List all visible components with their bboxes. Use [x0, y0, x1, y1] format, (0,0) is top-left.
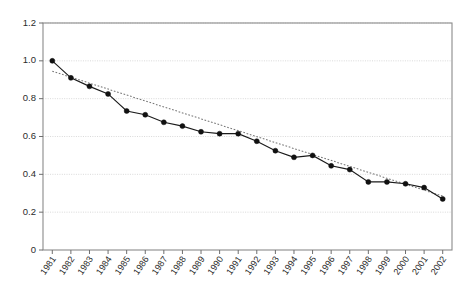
x-tick-label: 1990: [206, 254, 226, 276]
data-point-marker: [366, 179, 371, 184]
x-tick-label: 1995: [299, 254, 319, 276]
data-point-marker: [217, 131, 222, 136]
x-tick-label: 1988: [168, 254, 188, 276]
data-point-marker: [310, 153, 315, 158]
x-tick-label: 1987: [150, 254, 170, 276]
x-tick-label: 1998: [354, 254, 374, 276]
x-tick-label: 1983: [75, 254, 95, 276]
y-tick-label: 0.6: [23, 130, 36, 141]
x-tick-label: 2002: [429, 254, 449, 276]
data-point-marker: [422, 185, 427, 190]
y-tick-label: 0: [31, 244, 36, 255]
x-axis-ticks: [52, 250, 442, 254]
x-tick-label: 1994: [280, 254, 300, 276]
line-chart: 1.21.00.80.60.40.20 19811982198319841985…: [0, 0, 467, 300]
x-tick-label: 1991: [224, 254, 244, 276]
gridlines: [43, 23, 452, 212]
chart-container: 1.21.00.80.60.40.20 19811982198319841985…: [0, 0, 467, 300]
x-axis-labels: 1981198219831984198519861987198819891990…: [38, 254, 448, 276]
data-point-markers: [50, 58, 445, 201]
x-tick-label: 1997: [336, 254, 356, 276]
observed-line-series: [52, 61, 442, 199]
x-tick-label: 1999: [373, 254, 393, 276]
x-tick-label: 1981: [38, 254, 58, 276]
data-point-marker: [161, 120, 166, 125]
x-tick-label: 1993: [261, 254, 281, 276]
trend-line-series: [52, 71, 442, 196]
x-tick-label: 2000: [391, 254, 411, 276]
y-tick-label: 1.0: [23, 54, 36, 65]
data-point-marker: [440, 196, 445, 201]
x-tick-label: 1985: [113, 254, 133, 276]
y-tick-label: 0.2: [23, 206, 36, 217]
data-point-marker: [143, 112, 148, 117]
x-tick-label: 1992: [243, 254, 263, 276]
x-tick-label: 1989: [187, 254, 207, 276]
data-point-marker: [199, 129, 204, 134]
y-tick-label: 1.2: [23, 17, 36, 28]
x-tick-label: 1982: [57, 254, 77, 276]
data-point-marker: [291, 155, 296, 160]
data-point-marker: [236, 131, 241, 136]
data-point-marker: [106, 91, 111, 96]
y-tick-label: 0.8: [23, 92, 36, 103]
data-point-marker: [329, 163, 334, 168]
x-tick-label: 1996: [317, 254, 337, 276]
data-point-marker: [254, 139, 259, 144]
y-axis-ticks: [39, 23, 43, 250]
data-point-marker: [273, 148, 278, 153]
x-tick-label: 1986: [131, 254, 151, 276]
data-point-marker: [384, 179, 389, 184]
x-tick-label: 2001: [410, 254, 430, 276]
data-point-marker: [403, 181, 408, 186]
y-axis-labels: 1.21.00.80.60.40.20: [23, 17, 36, 255]
data-point-marker: [124, 108, 129, 113]
data-point-marker: [347, 167, 352, 172]
data-point-marker: [68, 75, 73, 80]
data-point-marker: [87, 84, 92, 89]
data-point-marker: [50, 58, 55, 63]
data-point-marker: [180, 124, 185, 129]
y-tick-label: 0.4: [23, 168, 36, 179]
x-tick-label: 1984: [94, 254, 114, 276]
